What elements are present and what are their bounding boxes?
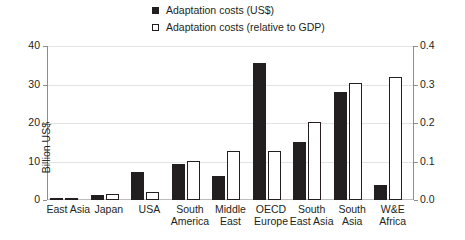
- bar-adaptation-costs-usd: [334, 92, 347, 200]
- bar-group: [251, 46, 292, 200]
- bar-adaptation-costs-gdp: [65, 198, 78, 200]
- right-axis-tick-label: 0.1: [420, 156, 454, 166]
- chart-legend: Adaptation costs (US$) Adaptation costs …: [152, 3, 325, 37]
- legend-label-usd: Adaptation costs (US$): [166, 5, 274, 16]
- right-axis-tick-label: 0.4: [420, 40, 454, 50]
- right-axis-tick-label: 0.2: [420, 117, 454, 127]
- bar-adaptation-costs-usd: [293, 142, 306, 200]
- bar-group: [89, 46, 130, 200]
- bar-adaptation-costs-gdp: [227, 151, 240, 200]
- bar-adaptation-costs-gdp: [106, 194, 119, 200]
- adaptation-costs-chart: Adaptation costs (US$) Adaptation costs …: [0, 0, 465, 240]
- legend-filled-square-icon: [152, 7, 159, 14]
- bar-adaptation-costs-gdp: [349, 83, 362, 200]
- left-axis-tick-label: 20: [6, 117, 40, 127]
- left-axis-tick-label: 40: [6, 40, 40, 50]
- bar-group: [332, 46, 373, 200]
- left-axis-tick: [43, 162, 47, 163]
- left-axis-tick-label: 30: [6, 79, 40, 89]
- bar-adaptation-costs-gdp: [389, 77, 402, 200]
- bar-adaptation-costs-usd: [212, 176, 225, 200]
- bar-adaptation-costs-gdp: [268, 151, 281, 200]
- bar-adaptation-costs-usd: [374, 185, 387, 200]
- bar-group: [129, 46, 170, 200]
- category-label: W&E Africa: [368, 203, 417, 227]
- right-axis-tick-label: 0.3: [420, 79, 454, 89]
- left-axis-tick-label: 0: [6, 194, 40, 204]
- bar-group: [291, 46, 332, 200]
- right-axis-tick: [414, 200, 418, 201]
- left-axis-tick-label: 10: [6, 156, 40, 166]
- right-axis-tick: [414, 85, 418, 86]
- bar-adaptation-costs-usd: [253, 63, 266, 200]
- legend-label-gdp: Adaptation costs (relative to GDP): [166, 22, 325, 33]
- bar-group: [48, 46, 89, 200]
- left-axis-tick: [43, 200, 47, 201]
- bar-adaptation-costs-usd: [172, 164, 185, 200]
- bar-adaptation-costs-gdp: [187, 161, 200, 200]
- left-axis-tick: [43, 123, 47, 124]
- bar-adaptation-costs-gdp: [308, 122, 321, 200]
- right-axis-tick: [414, 123, 418, 124]
- legend-open-square-icon: [152, 24, 159, 31]
- bar-adaptation-costs-usd: [91, 195, 104, 200]
- legend-item-usd: Adaptation costs (US$): [152, 3, 325, 18]
- left-axis-tick: [43, 85, 47, 86]
- bar-group: [372, 46, 413, 200]
- plot-area: Billion US$ Share of GDP (%) 0102030400.…: [48, 46, 413, 200]
- bar-adaptation-costs-usd: [131, 172, 144, 200]
- right-axis-tick: [414, 162, 418, 163]
- bar-group: [210, 46, 251, 200]
- bar-adaptation-costs-usd: [50, 198, 63, 200]
- left-axis-tick: [43, 46, 47, 47]
- bar-group: [170, 46, 211, 200]
- right-axis-tick-label: 0.0: [420, 194, 454, 204]
- bar-adaptation-costs-gdp: [146, 192, 159, 200]
- legend-item-gdp: Adaptation costs (relative to GDP): [152, 20, 325, 35]
- right-axis-tick: [414, 46, 418, 47]
